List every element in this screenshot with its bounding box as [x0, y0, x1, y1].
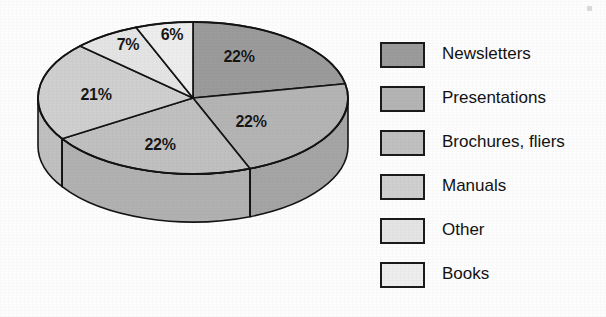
- pie-chart-svg: [0, 0, 370, 317]
- scan-corner-mark: [587, 6, 592, 11]
- legend-swatch-icon: [380, 42, 425, 68]
- legend-swatch-icon: [380, 130, 425, 156]
- pie-slice-label: 22%: [144, 136, 175, 154]
- legend-item[interactable]: Brochures, fliers: [380, 130, 602, 174]
- pie-slices-group: [38, 22, 348, 222]
- legend-swatch-icon: [380, 86, 425, 112]
- chart-legend: NewslettersPresentationsBrochures, flier…: [380, 42, 602, 306]
- legend-item[interactable]: Manuals: [380, 174, 602, 218]
- legend-swatch-icon: [380, 218, 425, 244]
- legend-swatch-icon: [380, 262, 425, 288]
- pie-slice-label: 22%: [223, 48, 254, 66]
- legend-item[interactable]: Newsletters: [380, 42, 602, 86]
- legend-item[interactable]: Presentations: [380, 86, 602, 130]
- legend-item-label: Manuals: [442, 173, 506, 199]
- legend-swatch-icon: [380, 174, 425, 200]
- pie-slice-label: 22%: [235, 113, 266, 131]
- pie-slice-label: 7%: [117, 36, 140, 54]
- pie-slice-label: 21%: [80, 86, 111, 104]
- legend-item-label: Brochures, fliers: [442, 129, 565, 155]
- legend-item-label: Presentations: [442, 85, 546, 111]
- legend-item[interactable]: Books: [380, 262, 602, 306]
- legend-item-label: Books: [442, 261, 489, 287]
- pie-slice-label: 6%: [161, 26, 184, 44]
- chart-area: 22%22%22%21%7%6%: [0, 0, 370, 317]
- legend-item-label: Newsletters: [442, 41, 531, 67]
- pie-chart-figure: 22%22%22%21%7%6% NewslettersPresentation…: [0, 0, 606, 317]
- legend-item[interactable]: Other: [380, 218, 602, 262]
- legend-item-label: Other: [442, 217, 485, 243]
